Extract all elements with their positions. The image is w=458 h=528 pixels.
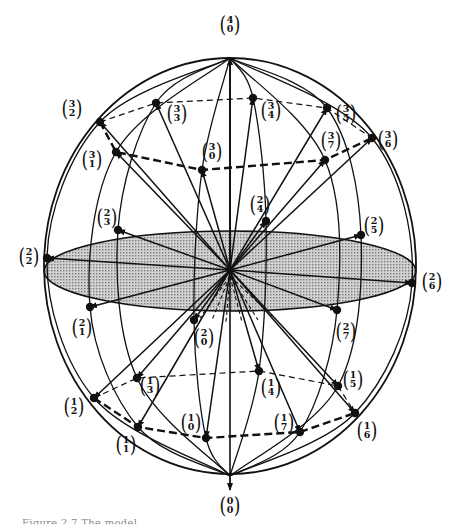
node-point-2-7 [333, 306, 341, 314]
label-bottom: 4 [268, 387, 275, 396]
label-stack: 31 [89, 150, 96, 168]
node-label-3-1: (31) [82, 150, 103, 168]
node-point-3-3 [152, 99, 160, 107]
paren-right: ) [357, 368, 364, 391]
node-point-3-2 [96, 118, 104, 126]
paren-right: ) [208, 326, 215, 349]
node-point-3-1 [112, 148, 120, 156]
paren-left: ( [261, 376, 268, 399]
node-point-2-4 [262, 217, 270, 225]
label-bottom: 2 [69, 108, 76, 117]
label-bottom: 3 [104, 217, 111, 226]
sphere-vector-diagram: (40)(00)(32)(33)(31)(30)(34)(35)(37)(36)… [0, 0, 458, 528]
paren-left: ( [364, 214, 371, 237]
paren-right: ) [154, 374, 161, 397]
paren-right: ) [436, 270, 443, 293]
label-stack: 27 [343, 322, 350, 340]
label-stack: 20 [201, 328, 208, 346]
paren-left: ( [140, 374, 147, 397]
paren-right: ) [78, 395, 85, 418]
paren-left: ( [82, 148, 89, 171]
paren-right: ) [33, 245, 40, 268]
label-top-pole: (40) [220, 15, 241, 33]
label-bottom: 0 [209, 151, 216, 160]
paren-right: ) [371, 419, 378, 442]
label-bottom: 4 [268, 110, 275, 119]
paren-left: ( [62, 97, 69, 120]
label-bottom: 3 [147, 385, 154, 394]
paren-right: ) [275, 376, 282, 399]
label-bottom: 0 [201, 337, 208, 346]
node-label-2-0: (20) [194, 328, 215, 346]
paren-left: ( [72, 316, 79, 339]
paren-left: ( [336, 320, 343, 343]
node-label-1-6: (16) [357, 421, 378, 439]
label-stack: 00 [227, 496, 234, 514]
paren-right: ) [216, 140, 223, 163]
paren-left: ( [274, 411, 281, 434]
label-stack: 32 [69, 99, 76, 117]
node-label-1-7: (17) [274, 413, 295, 431]
label-bottom: 2 [26, 256, 33, 265]
paren-right: ) [392, 128, 399, 151]
node-point-3-5 [323, 104, 331, 112]
paren-right: ) [234, 494, 241, 517]
label-stack: 40 [227, 15, 234, 33]
label-stack: 22 [26, 247, 33, 265]
paren-left: ( [220, 13, 227, 36]
paren-right: ) [111, 206, 118, 229]
node-label-2-4: (24) [250, 195, 271, 213]
label-stack: 36 [385, 130, 392, 148]
label-stack: 14 [268, 378, 275, 396]
paren-right: ) [76, 97, 83, 120]
paren-right: ) [181, 102, 188, 125]
label-bottom: 1 [123, 444, 130, 453]
label-bottom: 7 [281, 422, 288, 431]
node-point-2-1 [86, 303, 94, 311]
label-bottom: 1 [89, 159, 96, 168]
node-label-3-2: (32) [62, 99, 83, 117]
paren-right: ) [130, 433, 137, 456]
node-label-3-4: (34) [261, 101, 282, 119]
node-label-1-3: (13) [140, 376, 161, 394]
label-bottom: 4 [257, 204, 264, 213]
paren-left: ( [220, 494, 227, 517]
paren-left: ( [97, 206, 104, 229]
paren-right: ) [350, 320, 357, 343]
paren-right: ) [264, 193, 271, 216]
label-stack: 23 [104, 208, 111, 226]
label-stack: 12 [71, 397, 78, 415]
node-label-2-7: (27) [336, 322, 357, 340]
node-label-1-5: (15) [343, 370, 364, 388]
node-label-3-7: (37) [321, 131, 342, 149]
paren-left: ( [64, 395, 71, 418]
label-bottom: 7 [328, 140, 335, 149]
label-stack: 25 [371, 216, 378, 234]
label-stack: 35 [343, 104, 350, 122]
label-stack: 34 [268, 101, 275, 119]
node-point-3-4 [249, 94, 257, 102]
paren-left: ( [261, 99, 268, 122]
node-point-1-0 [202, 434, 210, 442]
paren-left: ( [167, 102, 174, 125]
paren-left: ( [343, 368, 350, 391]
label-bottom: 5 [343, 113, 350, 122]
label-bottom: 6 [429, 281, 436, 290]
label-bottom: 2 [71, 406, 78, 415]
paren-left: ( [321, 129, 328, 152]
paren-right: ) [288, 411, 295, 434]
label-bottom: 6 [385, 139, 392, 148]
node-label-2-2: (22) [19, 247, 40, 265]
label-stack: 15 [350, 370, 357, 388]
label-bottom-pole: (00) [220, 496, 241, 514]
label-bottom: 5 [350, 379, 357, 388]
node-point-1-2 [90, 394, 98, 402]
node-label-2-5: (25) [364, 216, 385, 234]
paren-right: ) [275, 99, 282, 122]
label-stack: 21 [79, 318, 86, 336]
label-stack: 37 [328, 131, 335, 149]
node-point-1-7 [296, 428, 304, 436]
paren-right: ) [86, 316, 93, 339]
paren-left: ( [336, 102, 343, 125]
node-label-2-6: (26) [422, 272, 443, 290]
